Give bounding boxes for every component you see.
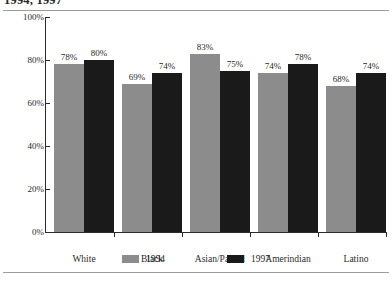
y-axis-tick-mark xyxy=(45,232,50,233)
bar: 68% xyxy=(326,86,356,232)
y-axis-tick-label: 60% xyxy=(0,98,44,108)
bar-value-label: 68% xyxy=(333,74,350,84)
y-axis-tick-label: 80% xyxy=(0,55,44,65)
chart-legend: 19941997 xyxy=(0,254,392,264)
bar: 74% xyxy=(356,73,386,232)
legend-item: 1997 xyxy=(227,254,270,264)
bar-value-label: 74% xyxy=(159,61,176,71)
bar-group: 78%80% xyxy=(46,17,114,232)
bar-group: 83%75% xyxy=(182,17,250,232)
bar-chart: 0%20%40%60%80%100% 78%80%69%74%83%75%74%… xyxy=(0,14,392,236)
bar-group: 68%74% xyxy=(318,17,386,232)
bar-value-label: 80% xyxy=(91,48,108,58)
page-title: 1994, 1997 xyxy=(4,0,62,8)
bar-value-label: 83% xyxy=(197,42,214,52)
bar-groups: 78%80%69%74%83%75%74%78%68%74% xyxy=(46,17,386,232)
y-axis-tick-label: 20% xyxy=(0,184,44,194)
bar-value-label: 74% xyxy=(363,61,380,71)
legend-item: 1994 xyxy=(122,254,165,264)
header-divider xyxy=(3,10,389,11)
bar-value-label: 74% xyxy=(265,61,282,71)
bar: 74% xyxy=(258,73,288,232)
y-axis-tick-label: 40% xyxy=(0,141,44,151)
bar-group: 69%74% xyxy=(114,17,182,232)
x-axis-tick-mark xyxy=(182,232,183,237)
legend-swatch xyxy=(227,255,244,263)
bar-value-label: 69% xyxy=(129,72,146,82)
footer-divider xyxy=(3,272,389,273)
bar: 74% xyxy=(152,73,182,232)
x-axis-tick-mark xyxy=(250,232,251,237)
y-axis-tick-label: 100% xyxy=(0,12,44,22)
bar: 83% xyxy=(190,54,220,232)
y-axis-tick-label: 0% xyxy=(0,227,44,237)
bar: 78% xyxy=(288,64,318,232)
bar: 78% xyxy=(54,64,84,232)
bar: 75% xyxy=(220,71,250,232)
legend-label: 1994 xyxy=(146,254,165,264)
bar-group: 74%78% xyxy=(250,17,318,232)
x-axis-tick-mark xyxy=(114,232,115,237)
x-axis-line xyxy=(45,232,386,233)
x-axis-tick-mark xyxy=(386,232,387,237)
bar-value-label: 78% xyxy=(61,52,78,62)
legend-swatch xyxy=(122,255,139,263)
bar: 69% xyxy=(122,84,152,232)
x-axis-tick-mark xyxy=(318,232,319,237)
bar-value-label: 75% xyxy=(227,59,244,69)
bar: 80% xyxy=(84,60,114,232)
legend-label: 1997 xyxy=(251,254,270,264)
bar-value-label: 78% xyxy=(295,52,312,62)
